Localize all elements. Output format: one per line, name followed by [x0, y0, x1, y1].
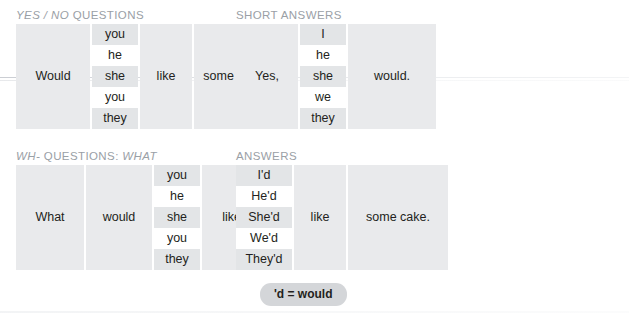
table-column: like	[140, 24, 192, 129]
panel-short-answers: SHORT ANSWERS Yes, I he she we they woul…	[236, 9, 436, 129]
table-cell: What	[35, 211, 64, 224]
table-cell: would.	[374, 70, 410, 83]
table-cell: some cake.	[366, 211, 430, 224]
table-cell: They'd	[236, 249, 292, 270]
table-cell: We'd	[236, 228, 292, 249]
panel-title-part: YES / NO	[16, 9, 69, 21]
panel-title-part: QUESTIONS	[69, 9, 144, 21]
table-cell: you	[154, 228, 200, 249]
note-pill-wrapper: 'd = would	[260, 283, 347, 306]
table-column: Yes,	[236, 24, 298, 129]
table-cell: they	[92, 108, 138, 129]
table-column-pronouns: I'd He'd She'd We'd They'd	[236, 165, 292, 270]
panel-wh-questions-what: WH- QUESTIONS: WHAT What would you he sh…	[16, 150, 268, 270]
table-cell: Would	[35, 70, 70, 83]
panel-title-part: QUESTIONS:	[40, 150, 122, 162]
panel-title-short-answers: SHORT ANSWERS	[236, 9, 436, 21]
table-cell: she	[300, 66, 346, 87]
contraction-note-badge: 'd = would	[260, 283, 347, 306]
table-column-pronouns: you he she you they	[154, 165, 200, 270]
panel-answers: ANSWERS I'd He'd She'd We'd They'd like …	[236, 150, 448, 270]
table-answers: I'd He'd She'd We'd They'd like some cak…	[236, 165, 448, 270]
table-column: What	[16, 165, 84, 270]
table-cell: She'd	[236, 207, 292, 228]
table-short-answers: Yes, I he she we they would.	[236, 24, 436, 129]
table-cell: like	[157, 70, 176, 83]
table-cell: you	[154, 165, 200, 186]
table-cell: he	[92, 45, 138, 66]
table-column: Would	[16, 24, 90, 129]
panel-title-part: WHAT	[122, 150, 157, 162]
table-cell: they	[154, 249, 200, 270]
panel-title-part: SHORT ANSWERS	[236, 9, 342, 21]
table-cell: you	[92, 24, 138, 45]
panel-title-answers: ANSWERS	[236, 150, 448, 162]
table-cell: I'd	[236, 165, 292, 186]
table-cell: I	[300, 24, 346, 45]
table-cell: you	[92, 87, 138, 108]
table-column: some cake.	[348, 165, 448, 270]
table-cell: He'd	[236, 186, 292, 207]
table-column: would	[86, 165, 152, 270]
table-cell: we	[300, 87, 346, 108]
table-cell: they	[300, 108, 346, 129]
page-bottom-edge-artifact	[0, 311, 629, 313]
table-cell: like	[311, 211, 330, 224]
table-wh-questions: What would you he she you they like?	[16, 165, 268, 270]
table-cell: Yes,	[255, 70, 279, 83]
table-cell: would	[103, 211, 136, 224]
table-column: like	[294, 165, 346, 270]
table-cell: she	[154, 207, 200, 228]
table-cell: she	[92, 66, 138, 87]
table-column-pronouns: you he she you they	[92, 24, 138, 129]
table-column: would.	[348, 24, 436, 129]
panel-title-part: ANSWERS	[236, 150, 297, 162]
panel-title-part: WH-	[16, 150, 40, 162]
panel-title-wh-questions-what: WH- QUESTIONS: WHAT	[16, 150, 268, 162]
table-cell: he	[154, 186, 200, 207]
table-column-pronouns: I he she we they	[300, 24, 346, 129]
table-cell: he	[300, 45, 346, 66]
